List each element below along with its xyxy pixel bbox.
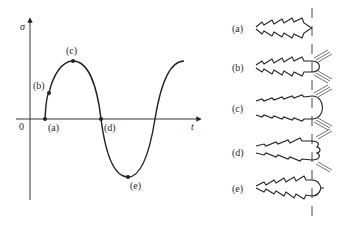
slip-band-b-upper — [314, 50, 332, 62]
stress-time-graph: σ t 0 (a) (b) (c) (d) (e) — [16, 20, 199, 200]
stage-c: (c) — [232, 85, 332, 130]
stage-e: (e) — [232, 176, 324, 199]
point-a-marker — [43, 117, 47, 121]
crack-d-lower — [256, 153, 312, 161]
crack-b-tip — [312, 61, 320, 72]
fatigue-crack-diagram: σ t 0 (a) (b) (c) (d) (e) (a) (b) — [0, 0, 346, 230]
stage-c-label: (c) — [232, 103, 243, 115]
point-a-label: (a) — [48, 122, 59, 134]
crack-e-upper — [256, 176, 312, 186]
crack-tip-stages: (a) (b) (c) — [232, 8, 332, 222]
point-d-label: (d) — [104, 122, 116, 134]
stage-b: (b) — [232, 50, 332, 83]
slip-band-d-lower — [316, 162, 332, 172]
stage-d: (d) — [232, 129, 332, 172]
crack-e-lower — [256, 188, 312, 199]
stage-e-label: (e) — [232, 183, 243, 195]
slip-band-c-lower — [314, 118, 332, 130]
slip-band-c-upper — [314, 85, 332, 97]
stage-a-label: (a) — [232, 23, 243, 35]
point-b-marker — [47, 91, 51, 95]
stage-a: (a) — [232, 18, 312, 38]
crack-d-upper — [256, 138, 312, 146]
point-e-label: (e) — [130, 180, 141, 192]
crack-b-lower — [256, 68, 312, 76]
origin-label: 0 — [19, 121, 24, 132]
crack-c-tip — [312, 96, 323, 119]
stage-d-label: (d) — [232, 147, 244, 159]
sigma-axis-label: σ — [20, 21, 26, 32]
point-d-marker — [99, 117, 103, 121]
slip-band-d-upper — [316, 129, 332, 139]
crack-e-tip — [312, 180, 321, 196]
crack-c-upper — [256, 95, 312, 101]
point-b-label: (b) — [33, 80, 45, 92]
stage-b-label: (b) — [232, 62, 244, 74]
crack-b-upper — [256, 57, 312, 65]
point-c-label: (c) — [66, 45, 77, 57]
point-c-marker — [71, 59, 75, 63]
crack-c-lower — [256, 115, 312, 121]
t-axis-label: t — [191, 121, 194, 132]
slip-band-b-lower — [314, 71, 332, 83]
crack-d-tip-folded — [312, 141, 320, 160]
crack-a-upper — [256, 18, 310, 27]
crack-a-lower — [256, 29, 310, 38]
point-e-marker — [126, 175, 130, 179]
